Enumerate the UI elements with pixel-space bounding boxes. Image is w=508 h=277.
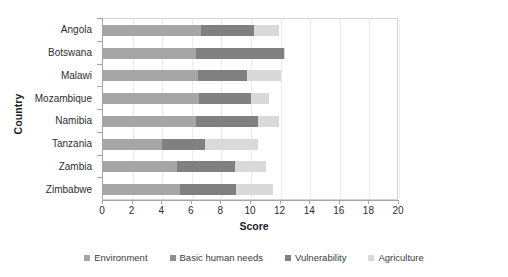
bar-segment[interactable]: [284, 48, 285, 59]
legend-item[interactable]: Vulnerability: [285, 252, 346, 263]
bar-segment[interactable]: [196, 48, 283, 59]
x-axis-title: Score: [0, 220, 508, 232]
plot-area: [102, 18, 398, 200]
legend-swatch-icon: [170, 255, 176, 261]
bar-segment[interactable]: [196, 116, 258, 127]
bar-row[interactable]: [103, 25, 397, 36]
bar-segment[interactable]: [198, 70, 247, 81]
x-axis-tick: [339, 200, 340, 204]
x-axis-tick-label: 0: [99, 205, 105, 216]
bar-segment[interactable]: [201, 25, 254, 36]
legend-item[interactable]: Basic human needs: [170, 252, 263, 263]
bar-segment[interactable]: [247, 70, 281, 81]
bar-segment[interactable]: [236, 184, 273, 195]
x-axis-tick: [132, 200, 133, 204]
y-axis-tick-label: Malawi: [61, 69, 92, 80]
x-axis-tick-label: 2: [129, 205, 135, 216]
x-axis-tick: [309, 200, 310, 204]
bar-segment[interactable]: [251, 93, 269, 104]
legend-label: Environment: [94, 252, 147, 263]
y-axis-tick-label: Namibia: [55, 115, 92, 126]
bar-segment[interactable]: [199, 93, 251, 104]
x-axis-tick: [191, 200, 192, 204]
x-axis-tick-label: 14: [304, 205, 315, 216]
legend-item[interactable]: Environment: [84, 252, 147, 263]
bar-row[interactable]: [103, 70, 397, 81]
bar-segment[interactable]: [103, 184, 180, 195]
x-axis-tick: [280, 200, 281, 204]
legend-item[interactable]: Agriculture: [368, 252, 423, 263]
legend-label: Vulnerability: [295, 252, 346, 263]
bar-segment[interactable]: [103, 116, 196, 127]
bar-chart: Country AngolaBotswanaMalawiMozambiqueNa…: [0, 0, 508, 277]
x-axis-tick-label: 6: [188, 205, 194, 216]
bar-segment[interactable]: [103, 139, 162, 150]
gridline: [399, 19, 400, 199]
legend-swatch-icon: [368, 255, 374, 261]
y-axis-tick-label: Tanzania: [52, 138, 92, 149]
chart-legend: EnvironmentBasic human needsVulnerabilit…: [0, 252, 508, 263]
x-axis-tick-label: 20: [392, 205, 403, 216]
y-axis-tick-label: Zimbabwe: [46, 183, 92, 194]
bar-row[interactable]: [103, 93, 397, 104]
bar-segment[interactable]: [180, 184, 236, 195]
x-axis-tick: [220, 200, 221, 204]
bar-series-container: [103, 19, 397, 199]
legend-label: Basic human needs: [180, 252, 263, 263]
x-axis-tick-label: 10: [244, 205, 255, 216]
bar-segment[interactable]: [162, 139, 205, 150]
bar-segment[interactable]: [103, 93, 199, 104]
bar-segment[interactable]: [103, 25, 201, 36]
y-axis-tick-label: Angola: [61, 24, 92, 35]
y-axis-category-labels: AngolaBotswanaMalawiMozambiqueNamibiaTan…: [0, 18, 100, 200]
legend-swatch-icon: [285, 255, 291, 261]
y-axis-tick-label: Mozambique: [35, 92, 92, 103]
bar-row[interactable]: [103, 48, 397, 59]
bar-segment[interactable]: [254, 25, 279, 36]
bar-segment[interactable]: [205, 139, 258, 150]
y-axis-tick-label: Botswana: [48, 47, 92, 58]
bar-segment[interactable]: [258, 116, 279, 127]
x-axis-tick: [161, 200, 162, 204]
x-axis-tick: [102, 200, 103, 204]
bar-segment[interactable]: [235, 161, 266, 172]
bar-row[interactable]: [103, 161, 397, 172]
x-axis-tick: [250, 200, 251, 204]
x-axis-tick-label: 4: [158, 205, 164, 216]
x-axis-tick-label: 8: [218, 205, 224, 216]
bar-segment[interactable]: [177, 161, 235, 172]
y-axis-tick-label: Zambia: [59, 160, 92, 171]
x-axis-tick: [398, 200, 399, 204]
bar-row[interactable]: [103, 139, 397, 150]
bar-segment[interactable]: [103, 161, 177, 172]
legend-swatch-icon: [84, 255, 90, 261]
x-axis-tick: [368, 200, 369, 204]
bar-segment[interactable]: [103, 48, 196, 59]
x-axis-tick-label: 16: [333, 205, 344, 216]
bar-segment[interactable]: [103, 70, 198, 81]
x-axis-tick-label: 12: [274, 205, 285, 216]
bar-row[interactable]: [103, 184, 397, 195]
bar-row[interactable]: [103, 116, 397, 127]
legend-label: Agriculture: [378, 252, 423, 263]
x-axis-tick-label: 18: [363, 205, 374, 216]
